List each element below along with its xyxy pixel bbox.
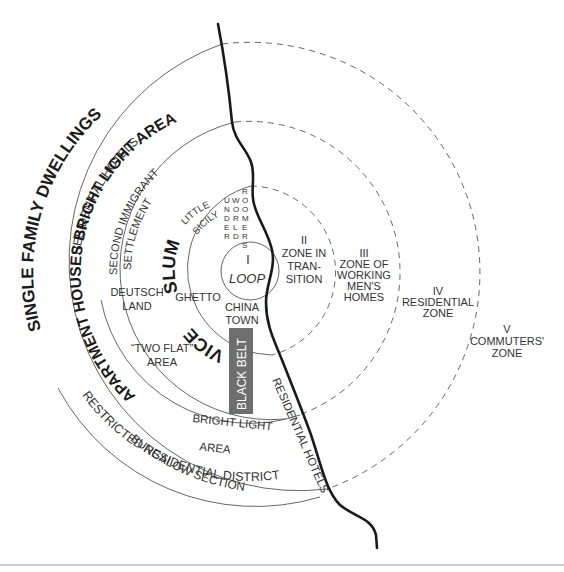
underworld-col-2: WORLD <box>232 196 240 241</box>
black-belt-label: BLACK BELT <box>235 338 249 410</box>
zone-v-numeral: V <box>503 323 511 335</box>
zone-i-name: LOOP <box>229 271 265 286</box>
zone-iv-line-2: ZONE <box>423 307 454 319</box>
zone-ii-line-3: SITION <box>286 273 323 285</box>
zone-iii-label: III ZONE OF WORKING MEN'S HOMES <box>337 247 391 303</box>
zone-v-line-2: ZONE <box>492 347 523 359</box>
zone-iii-line-4: HOMES <box>344 291 384 303</box>
concentric-zone-diagram: BLACK BELT SINGLE FAMILY DWELLINGS RESID… <box>0 0 564 572</box>
chinatown-label-1: CHINA <box>225 301 260 313</box>
zone-ii-line-2: TRAN- <box>287 260 321 272</box>
two-flat-label-2: AREA <box>147 356 178 368</box>
zone-ii-numeral: II <box>301 234 307 246</box>
bright-light-south-label-2: AREA <box>199 440 232 455</box>
zone-i-numeral: I <box>246 253 249 267</box>
bright-light-boundary <box>101 300 300 423</box>
deutschland-label-1: DEUTSCH <box>110 286 163 298</box>
zone-v-line-1: COMMUTERS' <box>470 335 544 347</box>
underworld-col-1: UNDER <box>224 196 230 241</box>
zone-ii-label: II ZONE IN TRAN- SITION <box>282 234 327 285</box>
roomers-col: ROOMERS <box>242 187 249 250</box>
zone-v-label: V COMMUTERS' ZONE <box>470 323 544 359</box>
ghetto-label: GHETTO <box>175 291 221 303</box>
underworld-label: UNDER WORLD <box>224 196 240 241</box>
zone-iv-label: IV RESIDENTIAL ZONE <box>402 285 474 319</box>
two-flat-label-1: “TWO FLAT” <box>131 342 193 354</box>
zone-ii-line-1: ZONE IN <box>282 247 327 259</box>
chinatown-label-2: TOWN <box>225 314 258 326</box>
roomers-label: ROOMERS <box>242 187 249 250</box>
deutschland-label-2: LAND <box>122 300 151 312</box>
